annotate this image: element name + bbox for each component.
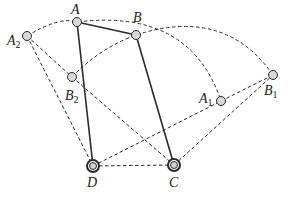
link-c-b1: [174, 75, 273, 165]
label-c-text: C: [169, 175, 178, 190]
arc-b-trajectory: [72, 26, 273, 77]
label-c: C: [169, 176, 178, 190]
label-a1-text: A: [199, 91, 208, 106]
label-a2: A2: [7, 34, 21, 50]
joint-a2: [23, 32, 32, 41]
label-b2-text: B: [65, 88, 74, 103]
link-b-c: [136, 35, 174, 165]
label-b2-sub: 2: [74, 94, 79, 105]
label-a: A: [71, 3, 80, 17]
label-b1-sub: 1: [273, 89, 278, 100]
label-b1-text: B: [264, 83, 273, 98]
joint-b2: [68, 73, 77, 82]
link-d-c: [93, 165, 174, 166]
label-d-text: D: [87, 175, 97, 190]
label-a2-text: A: [7, 33, 16, 48]
link-d-a1: [93, 101, 221, 166]
label-a2-sub: 2: [16, 39, 21, 50]
label-a1-sub: 1: [208, 97, 213, 108]
link-a-b: [77, 22, 136, 35]
label-b: B: [133, 11, 142, 25]
joint-a: [73, 18, 82, 27]
label-d: D: [87, 176, 97, 190]
label-b1: B1: [264, 84, 278, 100]
link-a-d: [77, 22, 93, 166]
joint-b: [132, 31, 141, 40]
joint-a1: [217, 97, 226, 106]
label-b-text: B: [133, 10, 142, 25]
label-a1: A1: [199, 92, 213, 108]
label-a-text: A: [71, 2, 80, 17]
pivot-c-core: [171, 162, 178, 169]
link-a2-b2: [27, 36, 72, 77]
link-a2-d: [27, 36, 93, 166]
joint-b1: [269, 71, 278, 80]
linkage-diagram: [0, 0, 288, 200]
pivot-d-core: [90, 163, 97, 170]
label-b2: B2: [65, 89, 79, 105]
